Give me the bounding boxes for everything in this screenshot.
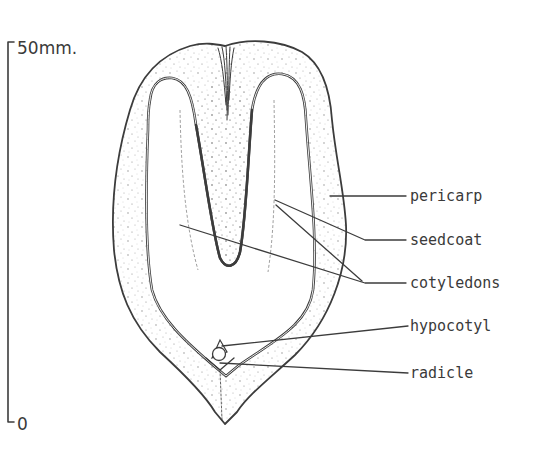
seed-diagram: 50mm. 0 pericarp [0, 0, 543, 455]
scale-bar [8, 42, 14, 422]
scale-top-label: 50mm. [17, 38, 77, 58]
label-pericarp: pericarp [410, 187, 482, 205]
scale-bottom-label: 0 [17, 414, 28, 434]
label-cotyledons: cotyledons [410, 274, 500, 292]
label-hypocotyl: hypocotyl [410, 317, 491, 335]
label-seedcoat: seedcoat [410, 231, 482, 249]
label-radicle: radicle [410, 364, 473, 382]
